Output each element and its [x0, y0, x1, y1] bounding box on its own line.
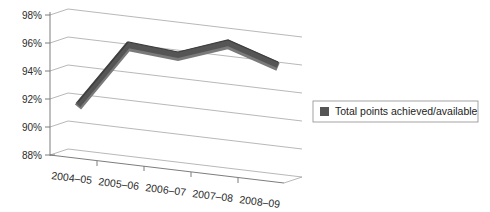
floor-right-edge	[284, 177, 302, 183]
gridline-depth-90	[50, 121, 68, 127]
gridline-depth-94	[50, 65, 68, 71]
x-tick-label-2005-06: 2005–06	[98, 175, 140, 192]
legend-marker-swatch	[320, 107, 329, 116]
gridline-88	[68, 149, 302, 177]
x-tick-label-2006-07: 2006–07	[145, 181, 187, 198]
legend-label-total-points: Total points achieved/available	[335, 105, 478, 117]
gridline-depth-88	[50, 149, 68, 155]
x-tick-label-2007-08: 2007–08	[192, 187, 234, 204]
line-chart: 98% 96% 94% 92% 90% 88% 2004–05 2005–06 …	[0, 0, 490, 212]
y-tick-label-88: 88%	[22, 150, 42, 161]
y-axis-labels: 98% 96% 94% 92% 90% 88%	[22, 10, 42, 161]
y-tick-label-98: 98%	[22, 10, 42, 21]
gridline-92	[68, 93, 302, 121]
y-tick-label-90: 90%	[22, 122, 42, 133]
y-tick-label-96: 96%	[22, 38, 42, 49]
gridline-depth-96	[50, 37, 68, 43]
chart-container: 98% 96% 94% 92% 90% 88% 2004–05 2005–06 …	[0, 0, 490, 212]
y-tick-label-94: 94%	[22, 66, 42, 77]
gridline-98	[68, 9, 302, 37]
gridline-90	[68, 121, 302, 149]
x-tick-label-2008-09: 2008–09	[239, 193, 281, 210]
x-axis-labels: 2004–05 2005–06 2006–07 2007–08 2008–09	[51, 169, 281, 210]
y-tick-label-92: 92%	[22, 94, 42, 105]
gridline-depth-92	[50, 93, 68, 99]
gridline-depth-98	[50, 9, 68, 15]
chart-legend: Total points achieved/available	[313, 101, 478, 122]
x-tick-label-2004-05: 2004–05	[51, 169, 93, 186]
